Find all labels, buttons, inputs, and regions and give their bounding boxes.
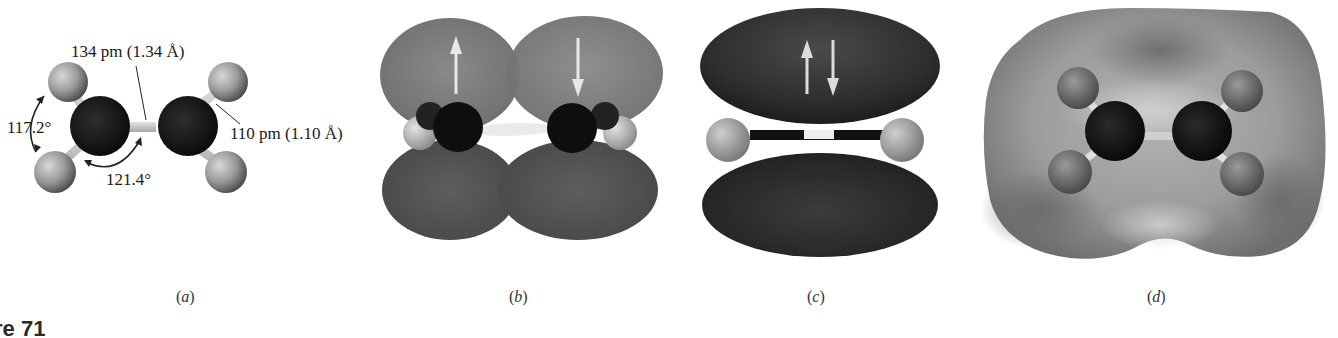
carbon-atom	[547, 103, 597, 153]
arrowhead-icon	[135, 137, 142, 146]
hydrogen-atom	[1221, 70, 1263, 112]
cc-bond-leader-line	[136, 66, 146, 120]
ch-bond-leader-line	[216, 104, 240, 124]
panel-c-caption: (c)	[807, 288, 825, 306]
figure-number-label: re 71	[0, 316, 45, 338]
hydrogen-atom	[706, 118, 750, 162]
hydrogen-atom	[208, 62, 248, 102]
pi-bond-diagram	[680, 0, 980, 338]
panel-a-ball-and-stick: 134 pm (1.34 Å) 117.2° 110 pm (1.10 Å) 1…	[0, 0, 380, 338]
p-orbital-bottom-lobe	[498, 140, 658, 240]
hydrogen-atom	[1057, 67, 1099, 109]
two-p-orbitals-diagram	[380, 0, 680, 338]
hydrogen-atom	[1048, 150, 1092, 194]
hcc-angle-label: 121.4°	[106, 170, 151, 190]
carbon-atom	[158, 96, 218, 156]
carbon-atom	[70, 96, 130, 156]
hydrogen-atom	[205, 151, 247, 193]
cc-bond-length-label: 134 pm (1.34 Å)	[71, 42, 184, 62]
hydrogen-atom	[1220, 152, 1264, 196]
panel-d-electrostatic-potential-map: (d)	[980, 0, 1338, 338]
pi-bond-bottom-lobe	[702, 153, 938, 257]
panel-b-caption: (b)	[509, 288, 528, 306]
carbon-atom	[1085, 101, 1145, 161]
hch-angle-label: 117.2°	[7, 118, 51, 138]
panel-c-pi-bond: (c)	[680, 0, 980, 338]
epm-negative-region	[1090, 15, 1230, 85]
hydrogen-atom	[880, 118, 924, 162]
hydrogen-atom	[48, 62, 88, 102]
epm-positive-region	[1100, 200, 1220, 250]
hydrogen-atom	[34, 151, 76, 193]
panel-d-caption: (d)	[1147, 288, 1166, 306]
pi-bond-top-lobe	[700, 8, 940, 124]
carbon-atom	[1172, 101, 1232, 161]
carbon-atom	[433, 102, 483, 152]
cc-bond-highlight	[804, 130, 834, 139]
panel-b-p-orbitals: (b)	[380, 0, 680, 338]
ch-bond-length-label: 110 pm (1.10 Å)	[230, 124, 343, 144]
panel-a-caption: (a)	[176, 288, 195, 306]
p-orbital-bottom-lobe	[382, 140, 518, 240]
